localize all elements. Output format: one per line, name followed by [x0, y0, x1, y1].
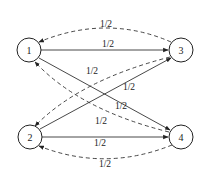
edge-label-2-to-4: 1/2 [94, 138, 106, 148]
node-label-1: 1 [27, 45, 32, 56]
edge-label-4-to-2: 1/2 [99, 159, 111, 169]
markov-chain-diagram: 1/2 1/2 1/2 1/2 1/2 1/2 1/2 1/2 1 3 2 4 [0, 0, 208, 180]
node-label-2: 2 [28, 132, 33, 143]
edge-label-1-to-3: 1/2 [102, 39, 114, 49]
edge-label-3-to-1: 1/2 [100, 19, 112, 29]
node-3: 3 [169, 38, 193, 62]
edge-labels: 1/2 1/2 1/2 1/2 1/2 1/2 1/2 1/2 [86, 19, 135, 169]
node-label-4: 4 [179, 132, 184, 143]
node-1: 1 [17, 38, 41, 62]
edge-label-3-to-2: 1/2 [86, 66, 98, 76]
node-label-3: 3 [179, 45, 184, 56]
edge-label-4-to-1: 1/2 [95, 116, 107, 126]
node-2: 2 [18, 125, 42, 149]
node-4: 4 [169, 125, 193, 149]
edge-label-1-to-4: 1/2 [115, 101, 127, 111]
edge-label-2-to-3: 1/2 [123, 82, 135, 92]
